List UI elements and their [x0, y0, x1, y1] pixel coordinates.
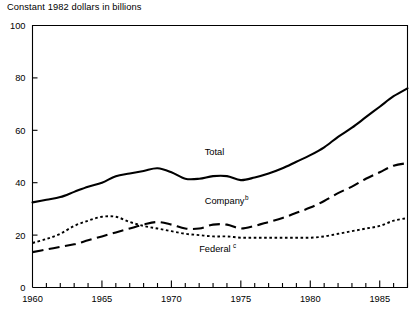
- data-series-group: [33, 88, 408, 252]
- y-tick-label: 0: [20, 283, 25, 293]
- series-label-superscript-b: b: [245, 194, 249, 201]
- series-annotations-group: TotalCompanybFederalc: [199, 147, 249, 254]
- series-label-federal: Federal: [199, 244, 231, 254]
- x-axis-ticks: 196019651970197519801985: [22, 281, 407, 304]
- line-chart-plot: 020406080100 196019651970197519801985 To…: [0, 0, 418, 316]
- y-tick-label: 40: [15, 178, 25, 188]
- x-tick-label: 1960: [22, 294, 43, 304]
- y-tick-label: 20: [15, 231, 25, 241]
- series-label-total: Total: [205, 147, 225, 157]
- y-tick-label: 100: [10, 21, 26, 31]
- series-label-company: Company: [205, 196, 245, 206]
- series-label-superscript-c: c: [233, 242, 236, 249]
- series-line-total: [33, 88, 408, 202]
- x-tick-label: 1985: [369, 294, 390, 304]
- series-line-federal: [33, 216, 408, 243]
- y-tick-label: 80: [15, 73, 25, 83]
- x-tick-label: 1970: [161, 294, 182, 304]
- x-tick-label: 1975: [230, 294, 251, 304]
- x-tick-label: 1980: [300, 294, 321, 304]
- x-tick-label: 1965: [92, 294, 113, 304]
- chart-figure: Constant 1982 dollars in billions 020406…: [0, 0, 418, 316]
- y-tick-label: 60: [15, 126, 25, 136]
